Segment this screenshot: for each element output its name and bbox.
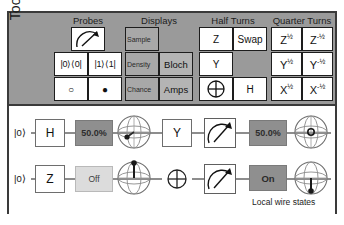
- toolbox-cell-project-zero[interactable]: |0⟩⟨0|: [54, 52, 88, 76]
- toolbox-cell-label: Y: [213, 59, 220, 70]
- toolbox-cell-label: X-½: [310, 83, 326, 96]
- toolbox-cell-bloch[interactable]: Bloch: [159, 52, 193, 76]
- toolbox-cell-label: Bloch: [164, 59, 188, 70]
- wire-1-probe-gate[interactable]: [204, 164, 236, 194]
- toolbox-cell-label: Y-½: [310, 58, 326, 71]
- toolbox-cell-project-one[interactable]: |1⟩⟨1|: [88, 52, 122, 76]
- toolbox-cell-label: |0⟩⟨0|: [61, 59, 82, 69]
- group-title-half-turns: Half Turns: [197, 15, 269, 26]
- x-gate-icon: [206, 79, 226, 99]
- toolbox-cell-sample[interactable]: Sample: [125, 27, 159, 51]
- toolbox-cell-x-gate[interactable]: [199, 77, 233, 101]
- group-title-quarter-turns: Quarter Turns: [269, 15, 335, 26]
- wire-0-gate-y[interactable]: Y: [162, 119, 192, 147]
- wire-1-ket-label: |0⟩: [14, 173, 26, 184]
- wire-0-ket-label: |0⟩: [14, 127, 26, 138]
- toolbox-panel: Toolbox Probes |: [9, 13, 335, 106]
- x-gate-icon: [166, 168, 188, 190]
- toolbox-cell-label: X½: [280, 83, 293, 96]
- toolbox-group-quarter-turns: Quarter Turns Z½ Z-½ Y½ Y-½ X½: [269, 15, 335, 103]
- toolbox-cell-label: Density: [127, 61, 150, 68]
- anti-control-icon: ○: [68, 84, 74, 95]
- wire-1-bloch-display-2[interactable]: [293, 160, 329, 196]
- toolbox-cell-x-inv-sqrt[interactable]: X-½: [302, 77, 333, 101]
- toolbox-cell-y-inv-sqrt[interactable]: Y-½: [302, 52, 333, 76]
- toolbox-group-half-turns: Half Turns Z Swap Y: [197, 15, 269, 103]
- toolbox-cell-swap-gate[interactable]: Swap: [233, 27, 267, 51]
- toolbox-cell-z-sqrt[interactable]: Z½: [271, 27, 302, 51]
- toolbox-cell-label: H: [246, 84, 253, 95]
- toolbox-cell-z-inv-sqrt[interactable]: Z-½: [302, 27, 333, 51]
- wire-0-gate-h[interactable]: H: [35, 119, 65, 147]
- toolbox-cell-anti-control[interactable]: ○: [54, 77, 88, 101]
- wire-0-probe-gate[interactable]: [204, 118, 236, 148]
- toolbox-group-probes: Probes |0⟩⟨0|: [53, 15, 123, 103]
- toolbox-cell-x-sqrt[interactable]: X½: [271, 77, 302, 101]
- toolbox-cell-amps[interactable]: Amps: [159, 77, 193, 101]
- toolbox-cell-y-gate[interactable]: Y: [199, 52, 233, 76]
- toolbox-cell-h-gate[interactable]: H: [233, 77, 267, 101]
- toolbox-cell-z-gate[interactable]: Z: [199, 27, 233, 51]
- toolbox-label: Toolbox: [7, 0, 23, 27]
- wire-1-gate-x[interactable]: [162, 165, 192, 193]
- local-wire-states-caption: Local wire states: [252, 197, 315, 207]
- toolbox-cell-density[interactable]: Density: [125, 52, 159, 76]
- toolbox-cell-label: Y½: [280, 58, 293, 71]
- wire-1-toggle-display-1[interactable]: Off: [75, 166, 113, 192]
- toolbox-cell-control[interactable]: ●: [88, 77, 122, 101]
- control-icon: ●: [102, 84, 108, 95]
- wire-0-chance-display-2[interactable]: 50.0%: [249, 120, 287, 146]
- toolbox-cell-label: Z½: [280, 33, 293, 46]
- toolbox-cell-label: |1⟩⟨1|: [95, 59, 116, 69]
- app-frame: Toolbox Probes |: [7, 11, 337, 214]
- toolbox-cell-chance[interactable]: Chance: [125, 77, 159, 101]
- toolbox-cell-y-sqrt[interactable]: Y½: [271, 52, 302, 76]
- wire-1-gate-z[interactable]: Z: [35, 165, 65, 193]
- toolbox-cell-label: Amps: [164, 84, 188, 95]
- quirk-app-window: Toolbox Probes |: [0, 0, 344, 225]
- measure-probe-icon: [74, 29, 102, 49]
- wire-0-bloch-display-1[interactable]: [116, 114, 152, 150]
- wire-0-chance-display-1[interactable]: 50.0%: [75, 120, 113, 146]
- toolbox-cell-label: Sample: [127, 36, 151, 43]
- toolbox-cell-label: Chance: [127, 86, 151, 93]
- toolbox-cell-label: Swap: [237, 34, 262, 45]
- toolbox-group-displays: Displays Sample Density Bloch Chance: [124, 15, 194, 103]
- group-title-displays: Displays: [124, 15, 194, 26]
- circuit-canvas[interactable]: |0⟩ H 50.0% Y: [9, 106, 335, 214]
- wire-0-bloch-display-2[interactable]: [293, 114, 329, 150]
- toolbox-cell-label: Z-½: [310, 33, 325, 46]
- toolbox-cell-label: Z: [213, 34, 219, 45]
- toolbox-cell-measure-probe[interactable]: [71, 27, 105, 51]
- wire-1-toggle-display-2[interactable]: On: [249, 165, 287, 191]
- group-title-probes: Probes: [53, 15, 123, 26]
- wire-1-bloch-display-1[interactable]: [116, 160, 152, 196]
